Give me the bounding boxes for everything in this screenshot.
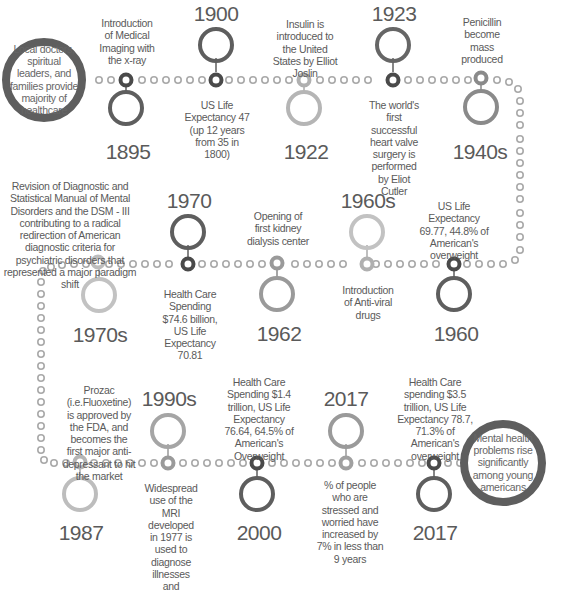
year-1970: 1970 (167, 190, 212, 212)
node-1923 (377, 29, 409, 86)
event-2000-text: Health Care Spending $1.4 trillion, US L… (220, 376, 298, 462)
event-1960-text: US Life Expectancy 69.77, 44.8% of Ameri… (418, 200, 490, 261)
year-1960s: 1960s (341, 190, 396, 212)
node-1922 (288, 75, 320, 125)
node-1940s (465, 73, 497, 124)
event-1940s-text: Penicillin become mass produced (453, 16, 511, 65)
event-1895-text: Introduction of Medical Imaging with the… (97, 17, 157, 66)
year-2017b: 2017 (413, 522, 458, 544)
year-1895: 1895 (106, 141, 151, 163)
right-vertical-dots (512, 86, 523, 263)
node-1895 (110, 75, 142, 125)
year-1962: 1962 (257, 323, 302, 345)
node-1962 (261, 258, 293, 311)
event-1962-text: Opening of first kidney dialysis center (246, 210, 310, 247)
year-1987: 1987 (59, 522, 104, 544)
year-1900: 1900 (194, 3, 239, 25)
year-1990s: 1990s (142, 388, 197, 410)
event-2017b-text: Health Care spending $3.5 trillion, US L… (397, 376, 473, 462)
year-1970s: 1970s (73, 324, 128, 346)
start-node-text: Local doctors, spiritual leaders, and fa… (9, 43, 79, 116)
event-1900-text: US Life Expectancy 47 (up 12 years from … (184, 99, 250, 160)
event-1923-text: The world's first successful heart valve… (366, 99, 422, 197)
year-2000: 2000 (237, 522, 282, 544)
event-1960s-text: Introduction of Anti-viral drugs (342, 284, 394, 321)
year-1940s: 1940s (453, 141, 508, 163)
event-1970-text: Health Care Spending $74.6 billion, US L… (158, 288, 222, 362)
year-1922: 1922 (284, 141, 329, 163)
left-vertical-dots (38, 279, 47, 463)
event-1922-text: Insulin is introduced to the United Stat… (271, 18, 339, 79)
event-1970s-text: Revision of Diagnostic and Statistical M… (1, 180, 139, 291)
year-1923: 1923 (372, 3, 417, 25)
year-1960: 1960 (434, 323, 479, 345)
event-2017a-text: % of people who are stressed and worried… (315, 479, 385, 565)
end-node-text: Mental health problems rise significantl… (471, 432, 535, 493)
event-1990s-text: Widespread use of the MRI developed in 1… (144, 482, 198, 593)
event-1987-text: Prozac (i.e.Fluoxetine) is approved by t… (62, 384, 136, 482)
year-2017a: 2017 (324, 388, 369, 410)
